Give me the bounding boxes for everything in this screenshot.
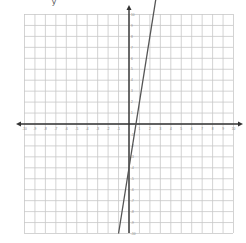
y-tick-label: 8 xyxy=(131,35,133,39)
x-tick-label: -7 xyxy=(54,127,57,131)
y-tick-label: -8 xyxy=(131,210,134,214)
x-tick-label: 1 xyxy=(139,127,141,131)
y-tick-label: -10 xyxy=(131,232,136,236)
x-tick-label: 6 xyxy=(191,127,193,131)
y-tick-label: -5 xyxy=(131,177,134,181)
x-tick-label: -9 xyxy=(34,127,37,131)
x-axis-left-arrow-icon xyxy=(16,122,21,127)
y-tick-label: -9 xyxy=(131,221,134,225)
coordinate-plane: -10-9-8-7-6-5-4-3-2-112345678910-10-9-8-… xyxy=(0,0,246,243)
y-tick-label: 1 xyxy=(131,111,133,115)
y-tick-label: -4 xyxy=(131,166,134,170)
x-tick-label: -6 xyxy=(65,127,68,131)
y-tick-label: 6 xyxy=(131,57,133,61)
x-tick-label: -2 xyxy=(107,127,110,131)
x-tick-label: 7 xyxy=(201,127,203,131)
x-tick-label: 9 xyxy=(222,127,224,131)
y-tick-label: -6 xyxy=(131,188,134,192)
y-tick-label: 9 xyxy=(131,24,133,28)
y-tick-label: 4 xyxy=(131,78,133,82)
x-tick-label: 10 xyxy=(232,127,236,131)
x-tick-label: 2 xyxy=(149,127,151,131)
x-tick-label: -3 xyxy=(96,127,99,131)
plotted-line xyxy=(119,0,157,234)
y-tick-label: 3 xyxy=(131,89,133,93)
x-tick-label: -4 xyxy=(86,127,89,131)
x-axis-right-arrow-icon xyxy=(238,122,243,127)
y-tick-label: 2 xyxy=(131,100,133,104)
x-tick-label: -1 xyxy=(117,127,120,131)
y-tick-label: 10 xyxy=(131,13,135,17)
x-tick-label: 4 xyxy=(170,127,172,131)
y-tick-label: 5 xyxy=(131,67,133,71)
x-tick-label: -10 xyxy=(22,127,27,131)
x-tick-label: -8 xyxy=(44,127,47,131)
y-axis-up-arrow-icon xyxy=(127,5,132,10)
x-tick-label: 8 xyxy=(212,127,214,131)
x-tick-label: 5 xyxy=(180,127,182,131)
x-tick-label: 3 xyxy=(159,127,161,131)
y-tick-label: -7 xyxy=(131,199,134,203)
y-tick-label: 7 xyxy=(131,46,133,50)
x-tick-label: -5 xyxy=(75,127,78,131)
